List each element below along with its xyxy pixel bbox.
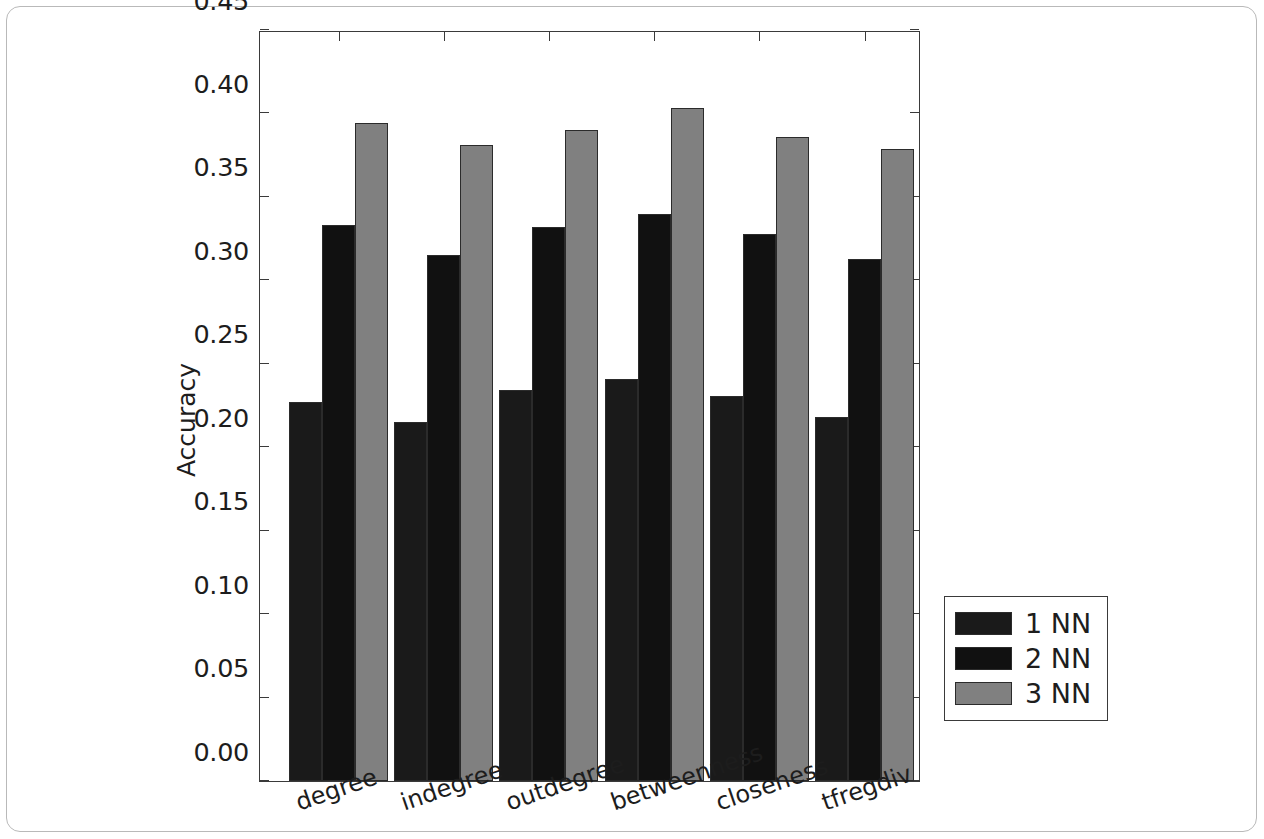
y-tick-label: 0.05 [193,653,249,683]
y-tick [260,29,269,30]
bar [848,259,881,781]
y-tick [260,446,269,447]
x-tick-top [549,32,550,41]
plot-area: 0.000.050.100.150.200.250.300.350.400.45 [259,31,920,782]
legend-label: 2 NN [1025,645,1091,672]
y-tick-label: 0.10 [193,570,249,600]
y-tick-label: 0.35 [193,152,249,182]
y-tick-label: 0.45 [193,0,249,16]
y-tick [260,363,269,364]
bar [355,123,388,781]
bar [460,145,493,781]
y-tick [260,112,269,113]
bar [743,234,776,781]
y-tick-label: 0.00 [193,737,249,767]
legend-item: 2 NN [955,641,1091,676]
bar [815,417,848,781]
y-tick-label: 0.20 [193,403,249,433]
bar [605,379,638,781]
legend-swatch [955,682,1012,705]
y-tick [260,279,269,280]
legend-label: 1 NN [1025,610,1091,637]
legend-item: 3 NN [955,676,1091,711]
bar [394,422,427,781]
bar [638,214,671,781]
bar [532,227,565,781]
bar [710,396,743,782]
figure-panel: Accuracy 0.000.050.100.150.200.250.300.3… [0,0,1264,839]
y-tick [260,196,269,197]
y-tick-right [910,29,919,30]
bar [776,137,809,781]
bar [671,108,704,781]
y-tick [260,697,269,698]
legend-swatch [955,647,1012,670]
y-tick [260,780,269,781]
y-tick [260,613,269,614]
bar [289,402,322,781]
bar [881,149,914,782]
x-tick-top [759,32,760,41]
y-tick-label: 0.40 [193,69,249,99]
bar [565,130,598,781]
x-tick-top [339,32,340,41]
x-tick-top [654,32,655,41]
bar [322,225,355,781]
bar [499,390,532,781]
plot-inner: 0.000.050.100.150.200.250.300.350.400.45 [260,32,919,781]
y-tick [260,530,269,531]
x-tick-top [865,32,866,41]
y-tick-label: 0.30 [193,236,249,266]
legend-label: 3 NN [1025,680,1091,707]
y-tick-label: 0.15 [193,486,249,516]
legend-swatch [955,612,1012,635]
x-tick-top [444,32,445,41]
y-tick-label: 0.25 [193,319,249,349]
legend-item: 1 NN [955,606,1091,641]
bar [427,255,460,781]
legend: 1 NN2 NN3 NN [944,596,1108,721]
y-tick-right [910,112,919,113]
